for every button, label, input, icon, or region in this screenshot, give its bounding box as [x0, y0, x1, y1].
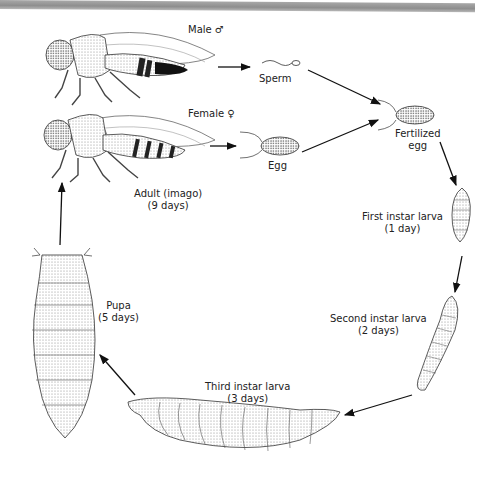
first-instar-label-line1: First instar larva — [362, 211, 443, 223]
first-instar-label-line2: (1 day) — [362, 223, 443, 235]
egg-label: Egg — [268, 160, 287, 172]
second-instar-larva-drawing — [417, 296, 458, 390]
male-fly-drawing — [46, 33, 215, 106]
pupa-label: Pupa (5 days) — [98, 300, 139, 324]
pupa-label-line1: Pupa — [98, 300, 139, 312]
third-instar-label: Third instar larva (3 days) — [205, 381, 290, 405]
pupa-label-line2: (5 days) — [98, 312, 139, 324]
life-cycle-illustration — [0, 0, 489, 479]
third-instar-label-line1: Third instar larva — [205, 381, 290, 393]
arrow-sperm-to-fertilized — [308, 70, 380, 104]
fertilized-egg-label-line1: Fertilized — [395, 128, 440, 140]
pupa-drawing — [32, 248, 95, 438]
first-instar-larva-drawing — [452, 188, 470, 242]
second-instar-label-line2: (2 days) — [330, 325, 427, 337]
fertilized-egg-label-line2: egg — [395, 140, 440, 152]
second-instar-label-line1: Second instar larva — [330, 313, 427, 325]
sperm-label: Sperm — [259, 73, 292, 85]
third-instar-label-line2: (3 days) — [205, 393, 290, 405]
sperm-drawing — [262, 61, 300, 66]
adult-label: Adult (imago) (9 days) — [134, 188, 202, 212]
female-fly-drawing — [44, 114, 215, 182]
female-label: Female ♀ — [188, 108, 235, 120]
arrow-second-to-third — [345, 395, 412, 415]
arrow-first-to-second — [455, 256, 462, 292]
adult-label-line2: (9 days) — [134, 200, 202, 212]
egg-drawing — [240, 132, 299, 158]
third-instar-larva-drawing — [128, 398, 340, 451]
arrow-egg-to-fertilized — [302, 120, 378, 152]
first-instar-label: First instar larva (1 day) — [362, 211, 443, 235]
arrow-third-to-pupa — [100, 355, 135, 395]
adult-label-line1: Adult (imago) — [134, 188, 202, 200]
arrow-pupa-to-adult — [60, 183, 62, 245]
fertilized-egg-drawing — [378, 100, 434, 130]
male-label: Male ♂ — [188, 24, 224, 36]
arrow-fertilized-to-first — [440, 142, 456, 185]
second-instar-label: Second instar larva (2 days) — [330, 313, 427, 337]
fertilized-egg-label: Fertilized egg — [395, 128, 440, 152]
